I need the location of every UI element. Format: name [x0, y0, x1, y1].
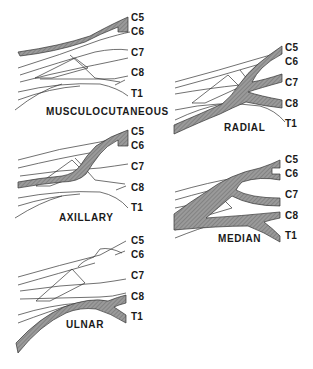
nerve-title-axillary: AXILLARY: [59, 212, 113, 223]
root-label-c6: C6: [131, 26, 144, 37]
root-label-c8: C8: [131, 67, 144, 78]
panel-axillary: C5 C6 C7 C8 T1 AXILLARY: [0, 118, 160, 226]
root-label-c5: C5: [131, 126, 144, 137]
root-label-c7: C7: [131, 270, 144, 281]
nerve-title-median: MEDIAN: [218, 233, 261, 244]
root-label-c6: C6: [285, 168, 298, 179]
root-label-c5: C5: [131, 12, 144, 23]
nerve-title-radial: RADIAL: [224, 122, 265, 133]
root-label-c8: C8: [131, 291, 144, 302]
root-label-t1: T1: [285, 118, 297, 129]
root-label-c6: C6: [285, 56, 298, 67]
root-label-t1: T1: [131, 88, 143, 99]
root-label-t1: T1: [131, 311, 143, 322]
root-label-c8: C8: [131, 182, 144, 193]
root-label-c6: C6: [131, 140, 144, 151]
root-label-t1: T1: [285, 230, 297, 241]
root-label-c6: C6: [131, 249, 144, 260]
nerve-title-musculocutaneous: MUSCULOCUTANEOUS: [46, 106, 169, 117]
panel-ulnar: C5 C6 C7 C8 T1 ULNAR: [0, 225, 160, 369]
root-label-c7: C7: [131, 47, 144, 58]
panel-median: C5 C6 C7 C8 T1 MEDIAN: [160, 150, 313, 245]
root-label-c7: C7: [285, 189, 298, 200]
root-label-c5: C5: [285, 154, 298, 165]
root-label-c5: C5: [131, 235, 144, 246]
panel-radial: C5 C6 C7 C8 T1 RADIAL: [160, 30, 313, 150]
root-label-t1: T1: [131, 202, 143, 213]
root-label-c7: C7: [285, 77, 298, 88]
root-label-c7: C7: [131, 161, 144, 172]
root-label-c5: C5: [285, 42, 298, 53]
panel-musculocutaneous: C5 C6 C7 C8 T1 MUSCULOCUTANEOUS: [0, 0, 160, 118]
root-label-c8: C8: [285, 98, 298, 109]
root-label-c8: C8: [285, 210, 298, 221]
nerve-title-ulnar: ULNAR: [66, 319, 104, 330]
